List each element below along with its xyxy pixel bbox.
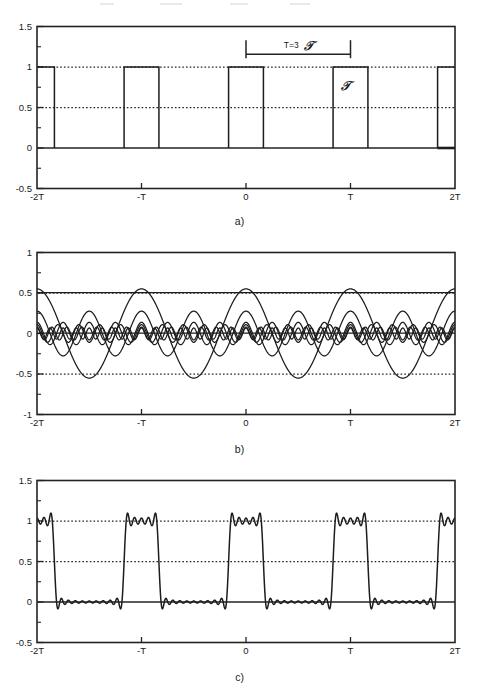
x-tick-label: -T: [137, 191, 146, 202]
y-tick-label: 1.5: [19, 21, 32, 32]
period-annotation-text: T=3: [284, 40, 299, 50]
x-tick-label: 0: [243, 417, 248, 428]
y-tick-label: 1.5: [19, 475, 32, 486]
panel-a-caption: a): [0, 215, 479, 227]
panel-c-reconstruction: 1.510.50-0.5-2T-T0T2T: [0, 468, 479, 695]
x-tick-label: -T: [137, 645, 146, 656]
tau-symbol-period: 𝒯: [303, 39, 318, 53]
y-tick-label: 0.5: [19, 287, 32, 298]
x-tick-label: -2T: [30, 417, 44, 428]
y-tick-label: 1: [27, 61, 32, 72]
panel-a-gridlines: [38, 67, 454, 108]
panel-b-harmonics: 10.50-0.5-1-2T-T0T2T: [0, 240, 479, 468]
tau-symbol-pulse: 𝒯: [340, 79, 355, 93]
x-tick-label: -T: [137, 417, 146, 428]
y-tick-label: 0: [27, 596, 32, 607]
panel-c-gridlines: [38, 521, 454, 562]
x-tick-label: -2T: [30, 645, 44, 656]
panel-b-caption: b): [0, 443, 479, 455]
panel-a-tick-labels: 1.510.50-0.5-2T-T0T2T: [16, 21, 461, 202]
x-tick-label: -2T: [30, 191, 44, 202]
x-tick-label: T: [348, 191, 354, 202]
x-tick-label: T: [348, 645, 354, 656]
y-tick-label: 0: [27, 328, 32, 339]
panel-a-annotations: T=3𝒯𝒯: [246, 39, 355, 93]
panel-c-tick-labels: 1.510.50-0.5-2T-T0T2T: [16, 475, 461, 656]
y-tick-label: 0.5: [19, 556, 32, 567]
figure-fourier-series: T=3𝒯𝒯 1.510.50-0.5-2T-T0T2T a) 10.50-0.5…: [0, 0, 479, 695]
panel-b-harmonic-curves: [37, 289, 455, 378]
x-tick-label: T: [348, 417, 354, 428]
x-tick-label: 2T: [449, 191, 460, 202]
x-tick-label: 2T: [449, 645, 460, 656]
y-tick-label: -0.5: [16, 368, 32, 379]
x-tick-label: 0: [243, 191, 248, 202]
x-tick-label: 0: [243, 645, 248, 656]
x-tick-label: 2T: [449, 417, 460, 428]
y-tick-label: 1: [27, 515, 32, 526]
y-tick-label: 0.5: [19, 102, 32, 113]
y-tick-label: 1: [27, 247, 32, 258]
panel-a-pulse-train: T=3𝒯𝒯 1.510.50-0.5-2T-T0T2T: [0, 0, 479, 240]
panel-c-caption: c): [0, 671, 479, 683]
y-tick-label: 0: [27, 142, 32, 153]
